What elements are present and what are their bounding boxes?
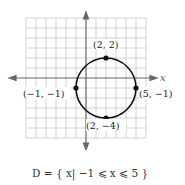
coordinate-plane: x (2, 2) (−1, −1) (5, −1) (2, −4)	[0, 0, 185, 150]
label-point-left: (−1, −1)	[23, 88, 64, 99]
label-point-right: (5, −1)	[139, 88, 173, 99]
x-axis-left-arrow-icon	[9, 76, 16, 81]
point-left	[73, 85, 78, 90]
domain-range-block: D = { x| −1 ⩽ x ⩽ 5 } R = { y| −4 ⩽ y ⩽ …	[32, 143, 148, 185]
point-right	[133, 85, 138, 90]
domain-statement: D = { x| −1 ⩽ x ⩽ 5 }	[32, 167, 148, 179]
x-axis-arrow-icon	[150, 76, 157, 81]
label-point-bottom: (2, −4)	[86, 120, 120, 131]
point-top	[103, 55, 108, 60]
y-axis-arrow-icon	[84, 12, 89, 19]
label-point-top: (2, 2)	[93, 39, 119, 50]
x-axis-label: x	[160, 72, 166, 83]
